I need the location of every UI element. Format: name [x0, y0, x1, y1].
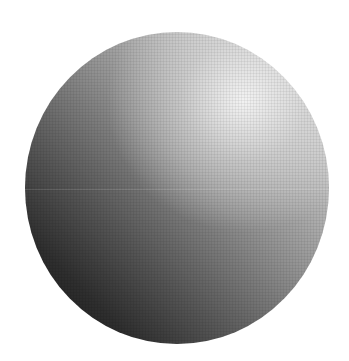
- gradient-sphere: [25, 32, 329, 344]
- horizontal-seam-line: [25, 189, 329, 190]
